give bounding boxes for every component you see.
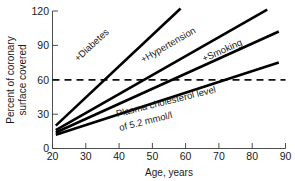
x-tick-label-50: 50: [147, 150, 159, 162]
x-tick-label-80: 80: [246, 150, 258, 162]
x-tick-labels: 20 30 40 50 60 70 80 90: [47, 150, 292, 162]
x-tick-label-40: 40: [113, 150, 125, 162]
y-tick-label-90: 90: [37, 39, 49, 51]
series-label-hypertension: +Hypertension: [139, 24, 198, 64]
y-tick-label-60: 60: [37, 74, 49, 86]
x-tick-marks: [53, 143, 286, 149]
x-tick-label-20: 20: [47, 150, 59, 162]
x-tick-label-90: 90: [280, 150, 292, 162]
chart-svg: 120 90 60 30 0 20 30 40 50 60 70 80 90: [0, 0, 295, 181]
series-label-diabetes: +Diabetes: [72, 26, 111, 64]
x-axis-title: Age, years: [145, 167, 193, 178]
y-axis-title-line2: surface covered: [17, 44, 28, 115]
y-tick-labels: 120 90 60 30 0: [31, 5, 49, 154]
x-tick-label-30: 30: [80, 150, 92, 162]
x-tick-label-60: 60: [180, 150, 192, 162]
x-tick-label-70: 70: [213, 150, 225, 162]
y-tick-label-120: 120: [31, 5, 49, 17]
coronary-surface-chart: 120 90 60 30 0 20 30 40 50 60 70 80 90: [0, 0, 295, 181]
y-axis-title-line1: Percent of coronary: [5, 36, 16, 123]
y-tick-label-30: 30: [37, 108, 49, 120]
